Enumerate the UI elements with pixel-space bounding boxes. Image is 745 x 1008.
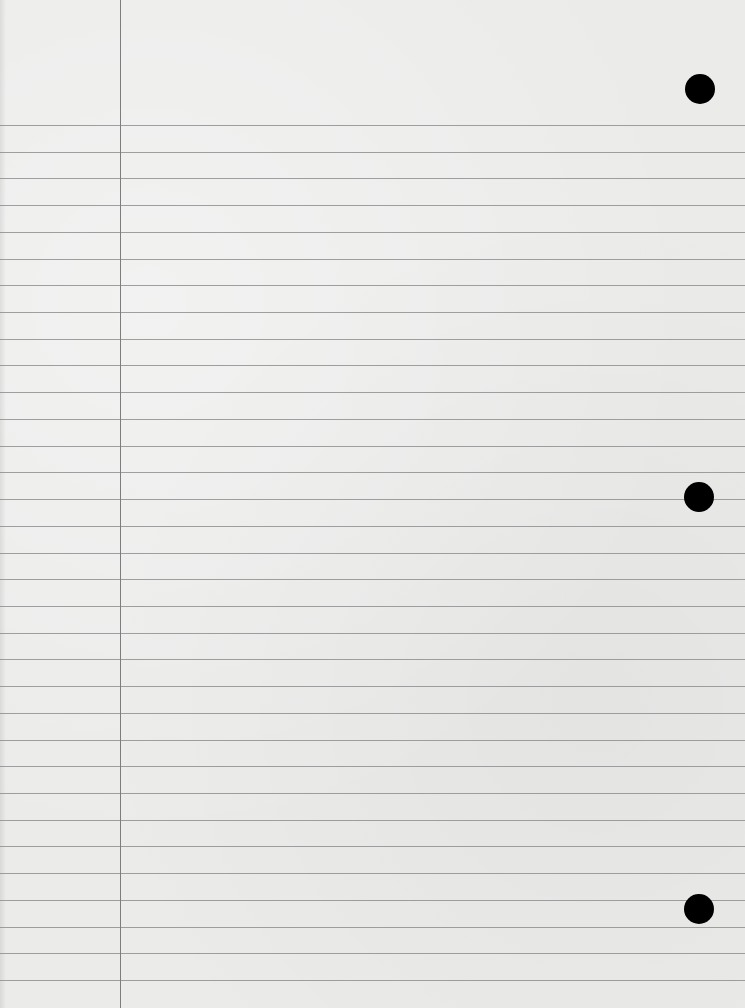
- ruled-line: [0, 927, 745, 928]
- ruled-line: [0, 740, 745, 741]
- ruled-line: [0, 392, 745, 393]
- ruled-line: [0, 713, 745, 714]
- margin-line: [120, 0, 121, 1008]
- ruled-line: [0, 178, 745, 179]
- ruled-line: [0, 686, 745, 687]
- ruled-line: [0, 125, 745, 126]
- ruled-line: [0, 633, 745, 634]
- ruled-line: [0, 579, 745, 580]
- ruled-line: [0, 980, 745, 981]
- ruled-line: [0, 472, 745, 473]
- notebook-page: [0, 0, 745, 1008]
- ruled-line: [0, 820, 745, 821]
- ruled-line: [0, 446, 745, 447]
- ruled-line: [0, 285, 745, 286]
- ruled-line: [0, 339, 745, 340]
- ruled-line: [0, 873, 745, 874]
- ruled-line: [0, 419, 745, 420]
- ruled-line: [0, 259, 745, 260]
- ruled-line: [0, 900, 745, 901]
- punch-hole: [684, 894, 714, 924]
- punch-hole: [685, 74, 715, 104]
- ruled-line: [0, 232, 745, 233]
- ruled-line: [0, 152, 745, 153]
- ruled-line: [0, 526, 745, 527]
- ruled-line: [0, 766, 745, 767]
- ruled-line: [0, 793, 745, 794]
- ruled-line: [0, 499, 745, 500]
- ruled-line: [0, 846, 745, 847]
- punch-hole: [684, 482, 714, 512]
- ruled-line: [0, 659, 745, 660]
- ruled-line: [0, 205, 745, 206]
- ruled-line: [0, 953, 745, 954]
- ruled-line: [0, 553, 745, 554]
- ruled-line: [0, 365, 745, 366]
- ruled-line: [0, 606, 745, 607]
- ruled-line: [0, 312, 745, 313]
